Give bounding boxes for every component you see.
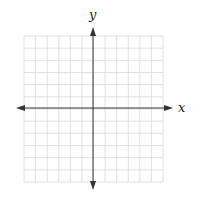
x-axis-label: x <box>178 100 186 115</box>
y-axis-top-arrow-icon <box>90 27 96 36</box>
x-axis-right-arrow-icon <box>164 105 173 111</box>
y-axis-label: y <box>88 7 97 22</box>
y-axis-bottom-arrow-icon <box>90 181 96 190</box>
x-axis <box>16 105 173 111</box>
coordinate-plane: y x <box>0 0 198 204</box>
x-axis-left-arrow-icon <box>16 105 25 111</box>
